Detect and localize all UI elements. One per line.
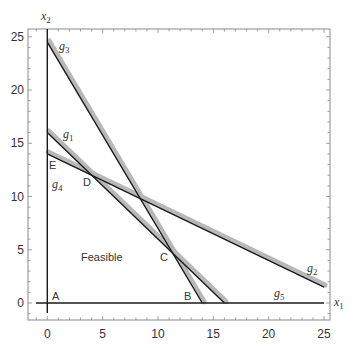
plot-frame [28, 29, 330, 320]
g4-label: g4 [52, 177, 63, 193]
g1-band [49, 131, 226, 301]
tick-marks [28, 29, 330, 320]
x-tick-0: 0 [44, 327, 51, 341]
constraint-lines [36, 29, 324, 313]
x-tick-5: 5 [99, 327, 106, 341]
x-tick-25: 25 [317, 327, 331, 341]
g3-label: g3 [59, 39, 70, 55]
point-b-label: B [184, 290, 191, 302]
y-tick-5: 5 [17, 243, 24, 257]
point-c-label: C [160, 251, 168, 263]
y-tick-0: 0 [17, 296, 24, 310]
y-tick-labels: 0 5 10 15 20 25 [11, 30, 25, 310]
x-tick-20: 20 [262, 327, 276, 341]
y-tick-15: 15 [11, 136, 25, 150]
y-tick-20: 20 [11, 83, 25, 97]
y-tick-25: 25 [11, 30, 25, 44]
x-tick-labels: 0 5 10 15 20 25 [44, 327, 331, 341]
y-axis-label: x2 [40, 9, 51, 25]
y-tick-10: 10 [11, 190, 25, 204]
g3-band [49, 41, 204, 302]
g1-line [47, 133, 224, 303]
g2-label: g2 [307, 261, 318, 277]
point-a-label: A [52, 290, 60, 302]
point-e-label: E [49, 159, 56, 171]
x-axis-label: x1 [333, 295, 344, 311]
x-tick-15: 15 [207, 327, 221, 341]
g5-label: g5 [274, 286, 285, 302]
point-d-label: D [83, 176, 91, 188]
feasible-region-label: Feasible [81, 251, 123, 263]
constraint-plot: 0 5 10 15 20 25 0 5 10 15 20 25 x2 x1 g3… [0, 0, 353, 348]
g1-label: g1 [63, 127, 74, 143]
x-tick-10: 10 [151, 327, 165, 341]
g3-line [47, 42, 202, 303]
